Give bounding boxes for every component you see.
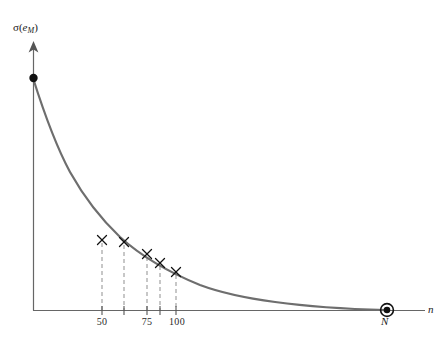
x-axis-label: n [428, 304, 434, 315]
population-point-dot [384, 307, 391, 314]
decay-curve-plot [0, 0, 444, 356]
x-tick-label: 75 [142, 316, 153, 327]
y-axis-label: σ(eM) [13, 22, 38, 35]
standard-error-curve [33, 78, 386, 310]
chart-figure: σ(eM) n N 50 75 100 [0, 0, 444, 356]
y-axis-label-close: ) [34, 21, 38, 33]
y-axis-label-sigma: σ( [13, 21, 23, 33]
curve-origin-dot [29, 74, 37, 82]
x-tick-label: 100 [169, 316, 185, 327]
x-tick-label: 50 [97, 316, 108, 327]
population-size-label: N [381, 316, 388, 327]
